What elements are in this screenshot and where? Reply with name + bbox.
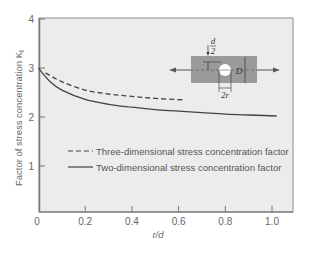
inset-label-2r: 2r xyxy=(221,90,230,100)
stress-concentration-chart: 1234 00.20.40.60.81.0 Three-dimensional … xyxy=(0,0,313,253)
y-axis-title-text: Factor of stress concentration K xyxy=(13,51,24,186)
inset-label-2: 2 xyxy=(211,46,216,56)
inset-label-D: D xyxy=(235,66,243,76)
y-axis-title: Factor of stress concentration Kt xyxy=(13,50,25,186)
legend-label-three-dimensional: Three-dimensional stress concentration f… xyxy=(96,146,289,157)
legend-label-two-dimensional: Two-dimensional stress concentration fac… xyxy=(96,162,281,173)
y-tick-label: 1 xyxy=(28,161,34,172)
x-tick-label: 0.6 xyxy=(172,216,186,227)
x-tick-label: 1.0 xyxy=(265,216,279,227)
y-tick-label: 2 xyxy=(28,112,34,123)
x-tick-label: 0.4 xyxy=(125,216,139,227)
x-tick-label: 0.2 xyxy=(78,216,92,227)
y-axis-title-subscript: t xyxy=(18,50,25,52)
y-tick-label: 3 xyxy=(28,63,34,74)
x-axis-title: r/d xyxy=(152,229,164,240)
y-tick-label: 4 xyxy=(28,14,34,25)
inset-label-d: d xyxy=(211,36,216,46)
x-tick-label: 0.8 xyxy=(218,216,232,227)
x-tick-label: 0 xyxy=(34,216,40,227)
